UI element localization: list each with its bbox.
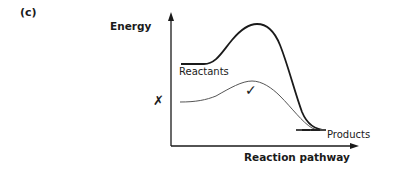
energy-profile-diagram xyxy=(0,0,395,171)
tick-mark-icon: ✓ xyxy=(245,83,257,97)
y-axis-arrow-icon xyxy=(168,12,174,21)
uncatalysed-curve xyxy=(181,24,326,130)
cross-mark-icon: ✗ xyxy=(153,94,164,107)
x-axis-arrow-icon xyxy=(350,143,359,149)
reactants-label: Reactants xyxy=(179,67,229,77)
y-axis-label: Energy xyxy=(110,21,151,32)
part-label: (c) xyxy=(20,7,37,18)
x-axis-label: Reaction pathway xyxy=(244,152,350,163)
products-label: Products xyxy=(327,130,370,140)
